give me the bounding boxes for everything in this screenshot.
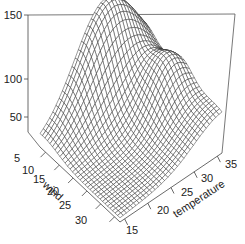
surface-mesh [40, 0, 222, 218]
temp-tick-35: 35 [225, 158, 237, 170]
temperature-axis-title: temperature [171, 177, 227, 219]
surface-plot: 150 100 50 5 10 15 20 25 30 wind 15 20 2… [0, 0, 245, 244]
z-tick-100: 100 [4, 73, 22, 85]
wind-tick-25: 25 [59, 199, 71, 211]
z-tick-150: 150 [4, 9, 22, 21]
temp-tick-20: 20 [157, 204, 169, 216]
wind-tick-5: 5 [14, 152, 20, 164]
z-axis: 150 100 50 [4, 9, 28, 132]
temp-tick-15: 15 [126, 224, 138, 236]
wind-tick-30: 30 [75, 214, 87, 226]
z-tick-50: 50 [10, 111, 22, 123]
